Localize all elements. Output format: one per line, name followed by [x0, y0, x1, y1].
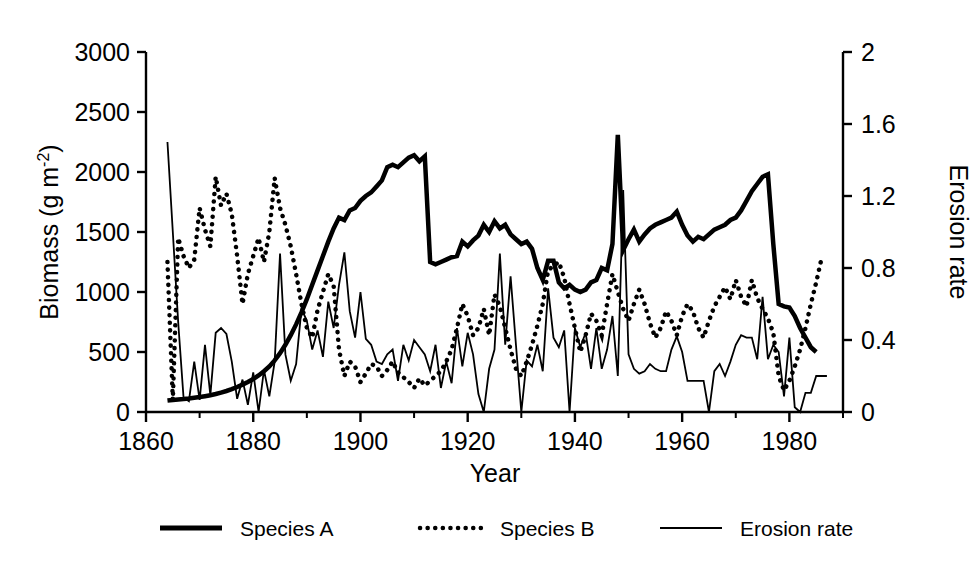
chart-legend: Species ASpecies BErosion rate — [160, 517, 853, 540]
x-tick-label: 1940 — [547, 427, 603, 455]
y-tick-label: 500 — [88, 338, 130, 366]
y2-tick-label: 1.2 — [861, 182, 896, 210]
y-tick-label: 2000 — [74, 158, 130, 186]
x-axis-title: Year — [470, 459, 521, 487]
chart-figure: 050010001500200025003000 00.40.81.21.62 … — [0, 0, 975, 566]
y2-tick-label: 1.6 — [861, 110, 896, 138]
x-tick-label: 1980 — [762, 427, 818, 455]
x-tick-label: 1960 — [654, 427, 710, 455]
y-axis-title: Biomass (g m-2) — [35, 144, 63, 319]
x-tick-label: 1900 — [333, 427, 389, 455]
legend-label: Erosion rate — [740, 517, 853, 540]
y-tick-label: 2500 — [74, 98, 130, 126]
y-tick-label: 1000 — [74, 278, 130, 306]
y2-tick-label: 2 — [861, 38, 875, 66]
y-tick-label: 1500 — [74, 218, 130, 246]
x-tick-label: 1880 — [225, 427, 281, 455]
y2-tick-label: 0 — [861, 398, 875, 426]
y2-tick-label: 0.4 — [861, 326, 896, 354]
y-tick-label: 0 — [116, 398, 130, 426]
y2-axis-title: Erosion rate — [945, 165, 973, 300]
legend-label: Species B — [500, 517, 595, 540]
y2-tick-label: 0.8 — [861, 254, 896, 282]
x-tick-label: 1860 — [118, 427, 174, 455]
legend-label: Species A — [240, 517, 333, 540]
y-tick-label: 3000 — [74, 38, 130, 66]
x-tick-label: 1920 — [440, 427, 496, 455]
biomass-erosion-line-chart: 050010001500200025003000 00.40.81.21.62 … — [0, 0, 975, 566]
